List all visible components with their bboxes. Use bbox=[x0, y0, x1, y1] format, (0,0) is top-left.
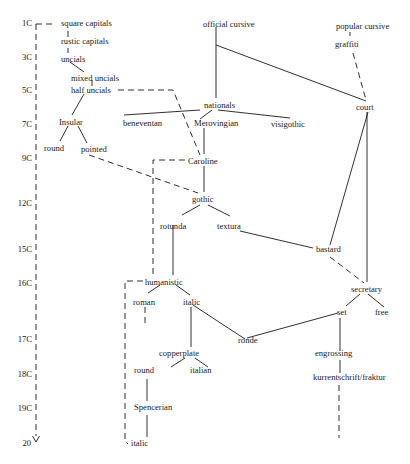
century-label: 18C bbox=[18, 369, 33, 379]
node-kurrentschrift-fraktur: kurrentschrift/fraktur bbox=[313, 372, 386, 382]
node-official-cursive: official cursive bbox=[203, 19, 255, 29]
node-copperplate: copperplate bbox=[159, 348, 199, 358]
century-label: 7C bbox=[22, 119, 32, 129]
timeline-axis: 1C 3C 5C 7C 9C 12C 15C 16C 17C 18C 19C 2… bbox=[18, 18, 56, 448]
nodes: square capitals rustic capitals uncials … bbox=[44, 18, 389, 448]
node-half-uncials: half uncials bbox=[71, 85, 112, 95]
node-italian: italian bbox=[190, 365, 212, 375]
node-bastard: bastard bbox=[316, 244, 342, 254]
node-pointed: pointed bbox=[81, 144, 107, 154]
node-spencerian: Spencerian bbox=[134, 402, 173, 412]
node-free: free bbox=[375, 307, 389, 317]
node-beneventan: beneventan bbox=[123, 118, 163, 128]
century-label: 15C bbox=[18, 244, 33, 254]
node-rustic-capitals: rustic capitals bbox=[61, 36, 109, 46]
node-gothic: gothic bbox=[192, 194, 214, 204]
century-label: 3C bbox=[22, 52, 32, 62]
node-popular-cursive: popular cursive bbox=[336, 21, 389, 31]
node-uncials: uncials bbox=[61, 54, 86, 64]
century-label: 5C bbox=[22, 85, 32, 95]
node-secretary: secretary bbox=[351, 284, 383, 294]
node-ronde: ronde bbox=[238, 335, 258, 345]
century-label: 20 bbox=[22, 438, 31, 448]
down-arrow-icon bbox=[33, 436, 40, 442]
script-evolution-diagram: 1C 3C 5C 7C 9C 12C 15C 16C 17C 18C 19C 2… bbox=[0, 0, 410, 464]
node-round-insular: round bbox=[44, 143, 65, 153]
node-nationals: nationals bbox=[204, 100, 236, 110]
century-label: 12C bbox=[18, 198, 33, 208]
node-court: court bbox=[356, 102, 374, 112]
node-round-copperplate: round bbox=[134, 365, 155, 375]
node-italic: italic bbox=[183, 297, 200, 307]
century-label: 9C bbox=[22, 153, 32, 163]
node-graffiti: graffiti bbox=[335, 39, 359, 49]
century-label: 19C bbox=[18, 403, 33, 413]
node-humanistic: humanistic bbox=[145, 277, 183, 287]
node-mixed-uncials: mixed uncials bbox=[71, 73, 120, 83]
node-caroline: Caroline bbox=[188, 156, 218, 166]
node-merovingian: Merovingian bbox=[194, 118, 239, 128]
node-rotunda: rotunda bbox=[160, 221, 186, 231]
node-insular: Insular bbox=[59, 117, 83, 127]
node-engrossing: engrossing bbox=[315, 348, 353, 358]
node-italic-modern: italic bbox=[131, 438, 148, 448]
century-label: 1C bbox=[22, 18, 32, 28]
node-textura: textura bbox=[217, 221, 241, 231]
node-visigothic: visigothic bbox=[271, 119, 305, 129]
node-set: set bbox=[337, 307, 347, 317]
century-label: 16C bbox=[18, 278, 33, 288]
node-square-capitals: square capitals bbox=[61, 18, 112, 28]
node-roman: roman bbox=[133, 297, 156, 307]
century-label: 17C bbox=[18, 334, 33, 344]
